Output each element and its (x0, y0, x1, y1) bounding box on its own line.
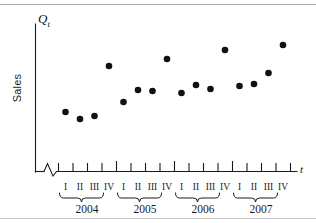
data-point-series (62, 42, 286, 123)
data-point (135, 87, 142, 94)
x-axis-break-zigzag (44, 164, 57, 177)
data-point (91, 113, 98, 120)
quarter-label: I (64, 182, 67, 192)
quarter-label: II (77, 182, 83, 192)
data-point (120, 99, 127, 106)
year-brace-2005 (118, 193, 162, 202)
data-point (207, 86, 214, 93)
data-point (164, 56, 171, 63)
x-axis-quarter-labels: I II III IV I II III IV I II III IV I II… (64, 182, 288, 192)
year-label: 2007 (250, 203, 273, 215)
quarter-label: II (251, 182, 257, 192)
quarter-label: II (193, 182, 199, 192)
scatter-plot-canvas: I II III IV I II III IV I II III IV I II… (0, 0, 316, 223)
data-point (106, 63, 113, 70)
quarter-label: III (90, 182, 100, 192)
chart-figure: Qt Sales t (0, 0, 316, 223)
data-point (62, 109, 69, 116)
quarter-label: IV (278, 182, 288, 192)
quarter-label: I (122, 182, 125, 192)
quarter-label: III (206, 182, 216, 192)
year-label: 2006 (192, 203, 215, 215)
data-point (77, 116, 84, 123)
quarter-label: I (238, 182, 241, 192)
year-braces (60, 193, 278, 202)
quarter-label: IV (162, 182, 172, 192)
year-label: 2005 (134, 203, 157, 215)
data-point (222, 47, 229, 54)
year-label: 2004 (76, 203, 99, 215)
x-axis-ticks (59, 161, 291, 172)
quarter-label: IV (220, 182, 230, 192)
data-point (149, 88, 156, 95)
quarter-label: I (180, 182, 183, 192)
year-brace-2007 (234, 193, 278, 202)
quarter-label: II (135, 182, 141, 192)
data-point (280, 42, 287, 49)
quarter-label: IV (104, 182, 114, 192)
year-brace-2006 (176, 193, 220, 202)
year-labels: 2004 2005 2006 2007 (76, 203, 273, 215)
data-point (251, 81, 258, 88)
quarter-label: III (148, 182, 158, 192)
data-point (178, 90, 185, 97)
quarter-label: III (264, 182, 274, 192)
data-point (193, 82, 200, 89)
data-point (236, 83, 243, 90)
data-point (265, 70, 272, 77)
year-brace-2004 (60, 193, 104, 202)
